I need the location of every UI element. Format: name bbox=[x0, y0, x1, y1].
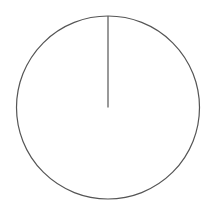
pie-chart bbox=[0, 0, 209, 218]
pie-slices bbox=[17, 16, 200, 199]
